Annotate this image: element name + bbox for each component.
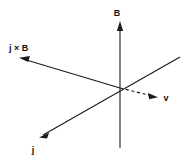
j-cross-b-axis	[19, 56, 120, 88]
j-cross-b-arrowhead	[19, 56, 30, 62]
velocity-line	[120, 88, 152, 96]
j-cross-b-label: j × B	[8, 43, 29, 53]
vector-diagram-canvas: B j × B j v	[0, 0, 187, 157]
b-field-axis	[117, 21, 123, 148]
b-field-label: B	[114, 8, 121, 18]
j-cross-b-line	[23, 59, 120, 88]
b-field-arrowhead	[117, 21, 123, 31]
current-density-axis	[39, 57, 180, 139]
current-density-label: j	[31, 145, 35, 155]
vector-diagram: B j × B j v	[0, 0, 187, 157]
velocity-label: v	[163, 93, 168, 103]
current-density-line	[43, 57, 180, 135]
current-density-arrowhead	[39, 133, 49, 139]
velocity-axis	[120, 88, 158, 99]
velocity-arrowhead	[148, 93, 158, 99]
